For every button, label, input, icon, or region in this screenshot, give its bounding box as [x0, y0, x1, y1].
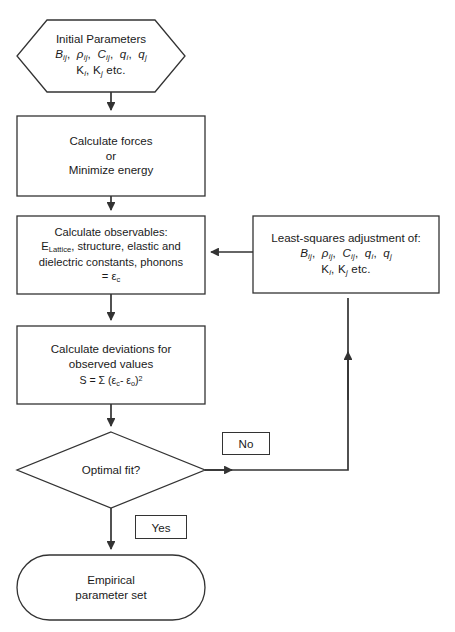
node-shape-least-squares — [253, 216, 439, 293]
edge-label-yes-text: Yes — [152, 521, 171, 534]
edge-label-no: No — [222, 432, 270, 455]
edge-label-no-text: No — [239, 437, 254, 450]
node-shape-calculate-observables — [17, 216, 205, 294]
node-shape-optimal-fit — [17, 432, 205, 508]
node-shape-initial-parameters — [17, 20, 185, 92]
flowchart-canvas: Initial Parameters Bij, ρij, Cij, qi, qj… — [0, 0, 455, 632]
node-shape-calculate-forces — [17, 116, 205, 196]
flowchart-shapes-and-connectors — [0, 0, 455, 632]
node-shape-calculate-deviations — [17, 326, 205, 404]
node-shape-empirical-parameter-set — [17, 555, 205, 620]
edge-label-yes: Yes — [135, 515, 187, 539]
